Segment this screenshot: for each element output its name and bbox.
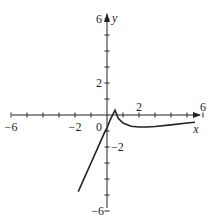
y-tick-label: 6: [96, 12, 102, 26]
y-tick-label: 2: [96, 76, 102, 90]
x-tick-label: 0: [96, 120, 102, 134]
tick-labels: −6−202662−2−6xy: [5, 11, 206, 216]
x-tick-label: −6: [5, 120, 18, 134]
x-axis-label: x: [192, 122, 199, 136]
y-axis-label: y: [111, 11, 118, 25]
x-tick-label: 6: [200, 100, 206, 114]
y-tick-label: −6: [91, 204, 104, 216]
y-axis-arrow-icon: [104, 13, 110, 22]
y-tick-label: −2: [111, 140, 124, 154]
function-graph: −6−202662−2−6xy: [0, 0, 209, 216]
x-tick-label: 2: [136, 100, 142, 114]
x-tick-label: −2: [69, 120, 82, 134]
